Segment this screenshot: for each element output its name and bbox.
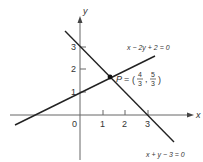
intersection-equals: = — [124, 74, 129, 84]
intersection-y-denominator: 3 — [151, 80, 155, 87]
intersection-point — [108, 75, 113, 80]
intersection-x-numerator: 4 — [138, 71, 142, 78]
y-tick-label-2: 2 — [71, 64, 76, 74]
intersection-comma: , — [145, 74, 148, 84]
intersection-open-paren: ( — [132, 75, 135, 85]
x-axis-label: x — [195, 110, 201, 120]
y-axis-arrow-icon — [78, 16, 83, 23]
intersection-close-paren: ) — [158, 75, 161, 85]
intersection-x-denominator: 3 — [138, 80, 142, 87]
origin-label: 0 — [72, 119, 77, 129]
line-2-equation-label: x + y − 3 = 0 — [145, 151, 185, 159]
line-1-equation-label: x − 2y + 2 = 0 — [126, 44, 170, 52]
x-tick-label-1: 1 — [100, 119, 105, 129]
x-tick-label-3: 3 — [145, 119, 150, 129]
intersection-label: P — [116, 74, 122, 84]
x-axis-arrow-icon — [187, 113, 194, 118]
x-tick-label-2: 2 — [122, 119, 127, 129]
y-axis-label: y — [82, 6, 88, 16]
y-tick-label-3: 3 — [71, 42, 76, 52]
intersection-y-numerator: 5 — [151, 71, 155, 78]
coordinate-diagram: x y 0 1 2 3 1 2 3 x − 2y + 2 = 0 x + y −… — [0, 0, 203, 162]
